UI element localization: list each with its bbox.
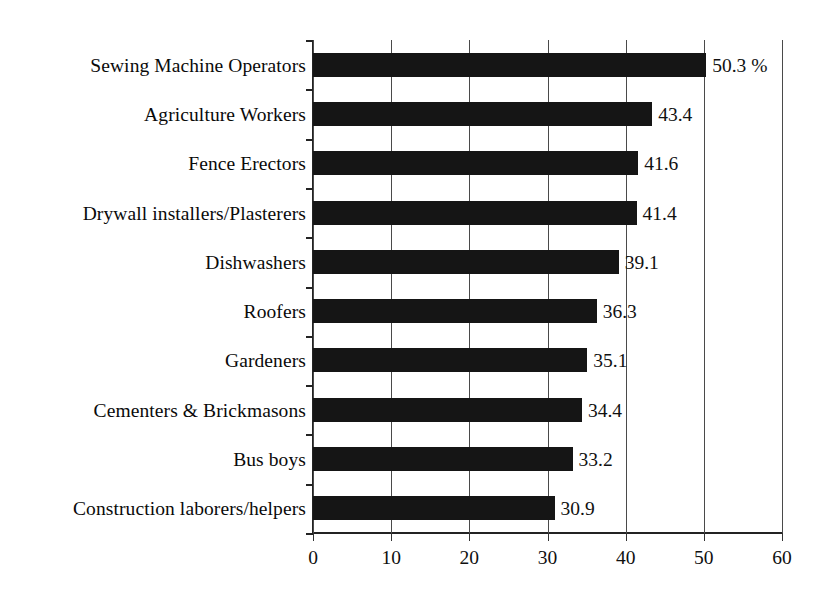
category-label: Dishwashers xyxy=(0,253,306,273)
y-axis-tick xyxy=(306,434,313,436)
y-axis-tick xyxy=(306,139,313,141)
y-axis-tick xyxy=(306,484,313,486)
x-axis-tick-label: 50 xyxy=(694,548,714,568)
gridline xyxy=(704,40,705,533)
x-axis-tick xyxy=(469,533,470,541)
bar xyxy=(313,102,652,126)
category-label: Bus boys xyxy=(0,450,306,470)
bar xyxy=(313,348,587,372)
x-axis-tick-label: 20 xyxy=(460,548,480,568)
bar xyxy=(313,447,573,471)
bar-value-label: 43.4 xyxy=(658,105,692,125)
x-axis-tick-labels: 0102030405060 xyxy=(313,548,782,578)
category-label: Cementers & Brickmasons xyxy=(0,401,306,421)
bar-value-label: 39.1 xyxy=(625,253,659,273)
x-axis-tick-label: 60 xyxy=(772,548,792,568)
bar xyxy=(313,398,582,422)
category-label: Fence Erectors xyxy=(0,154,306,174)
bar-value-label: 33.2 xyxy=(579,450,613,470)
gridline xyxy=(782,40,783,533)
category-label: Sewing Machine Operators xyxy=(0,56,306,76)
bar-value-label: 35.1 xyxy=(593,351,627,371)
x-axis-tick xyxy=(782,533,783,541)
bar-value-label: 30.9 xyxy=(561,499,595,519)
bar-value-label: 41.6 xyxy=(644,154,678,174)
y-axis-tick xyxy=(306,287,313,289)
category-label: Drywall installers/Plasterers xyxy=(0,204,306,224)
x-axis-tick xyxy=(313,533,314,541)
category-label: Roofers xyxy=(0,302,306,322)
bar xyxy=(313,250,619,274)
bar-value-label: 50.3 % xyxy=(712,56,767,76)
x-axis-tick-label: 0 xyxy=(308,548,318,568)
x-axis-tick xyxy=(626,533,627,541)
y-axis-tick xyxy=(306,188,313,190)
x-axis-tick-label: 40 xyxy=(616,548,636,568)
bar xyxy=(313,496,555,520)
category-label: Construction laborers/helpers xyxy=(0,499,306,519)
x-axis-tick-label: 30 xyxy=(538,548,558,568)
y-axis-tick xyxy=(306,533,313,535)
category-label: Agriculture Workers xyxy=(0,105,306,125)
bar-value-label: 41.4 xyxy=(643,204,677,224)
x-axis-tick-label: 10 xyxy=(381,548,401,568)
y-axis-tick xyxy=(306,89,313,91)
bar-value-label: 34.4 xyxy=(588,401,622,421)
category-axis-labels: Sewing Machine Operators Agriculture Wor… xyxy=(0,40,306,533)
x-axis-tick xyxy=(704,533,705,541)
bar xyxy=(313,201,637,225)
bar-chart: Sewing Machine Operators Agriculture Wor… xyxy=(0,0,825,601)
bar xyxy=(313,53,706,77)
x-axis-tick xyxy=(548,533,549,541)
bar-value-label: 36.3 xyxy=(603,302,637,322)
y-axis-tick xyxy=(306,237,313,239)
x-axis-tick xyxy=(391,533,392,541)
y-axis-tick xyxy=(306,385,313,387)
y-axis-tick xyxy=(306,336,313,338)
y-axis-tick xyxy=(306,40,313,42)
category-label: Gardeners xyxy=(0,351,306,371)
bar xyxy=(313,299,597,323)
bar xyxy=(313,151,638,175)
plot-area: 50.3 %43.441.641.439.136.335.134.433.230… xyxy=(313,40,782,533)
